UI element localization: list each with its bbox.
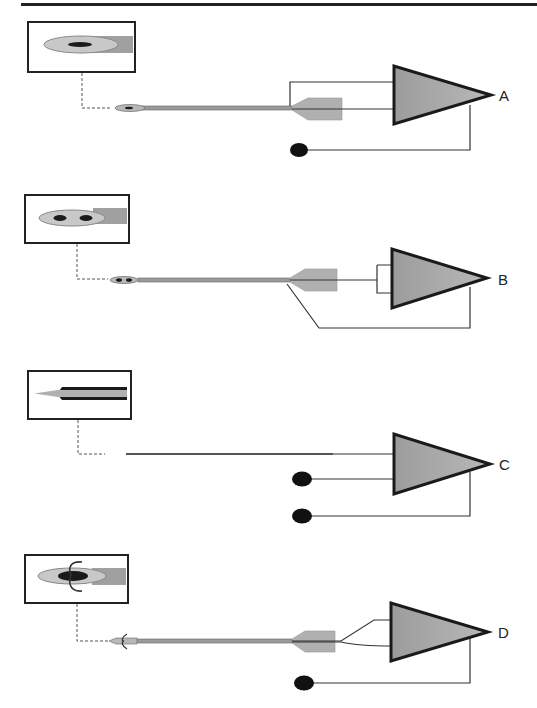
needle-tip	[110, 277, 138, 284]
leader-line	[78, 420, 105, 454]
panel-d: D	[25, 555, 509, 691]
core-wire-2	[80, 215, 93, 221]
amplifier-d	[391, 603, 488, 661]
ground-electrode	[290, 143, 308, 157]
panel-b: B	[25, 195, 508, 328]
diagram-canvas: A B	[0, 0, 537, 708]
panel-label-b: B	[498, 271, 508, 288]
ground-electrode	[292, 509, 312, 524]
amplifier-b	[392, 249, 487, 308]
panel-c: C	[28, 371, 510, 524]
leader-line	[77, 244, 108, 279]
panel-label-c: C	[499, 456, 510, 473]
ground-electrode	[294, 676, 314, 691]
wire-bundle	[58, 571, 88, 581]
inset-a	[28, 22, 135, 72]
panel-label-a: A	[499, 87, 509, 104]
panel-a: A	[28, 22, 509, 157]
needle-core-1	[116, 278, 122, 282]
panel-label-d: D	[498, 624, 509, 641]
inset-c	[28, 371, 131, 419]
amplifier-a	[394, 66, 491, 124]
needle-core-2	[126, 278, 132, 282]
leader-line	[82, 73, 112, 108]
core-wire-1	[54, 215, 67, 221]
inset-b	[25, 195, 129, 243]
needle-core	[125, 107, 133, 109]
amplifier-c	[394, 434, 490, 494]
top-rule	[21, 3, 537, 6]
cannula-tip	[39, 210, 105, 226]
leader-line	[77, 604, 108, 641]
core-wire	[68, 42, 92, 47]
reference-electrode	[292, 472, 312, 487]
inset-d	[25, 555, 128, 603]
